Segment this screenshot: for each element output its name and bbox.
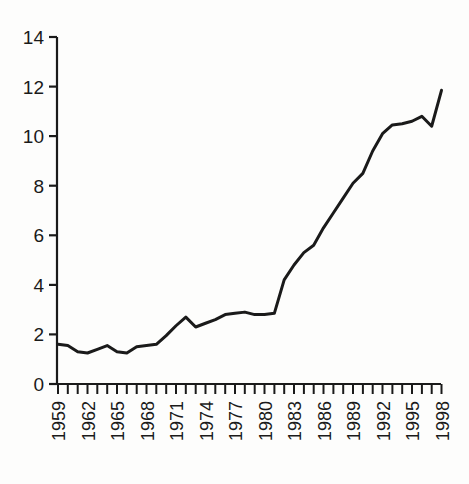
y-tick-label: 6 <box>33 225 44 246</box>
y-tick-label: 4 <box>33 275 44 296</box>
x-tick-label: 1959 <box>49 401 69 441</box>
x-tick-label: 1971 <box>167 401 187 441</box>
x-tick-label: 1992 <box>374 401 394 441</box>
x-tick-label: 1977 <box>226 401 246 441</box>
y-tick-label: 8 <box>33 176 44 197</box>
y-tick-label: 12 <box>23 77 44 98</box>
x-tick-label: 1980 <box>256 401 276 441</box>
x-tick-label: 1962 <box>79 401 99 441</box>
x-tick-label: 1986 <box>315 401 335 441</box>
chart-plot-area: 0 2 4 6 8 10 12 14 1959 1962 1965 1968 1… <box>0 0 469 484</box>
y-tick-label: 0 <box>33 374 44 395</box>
y-tick-label: 2 <box>33 324 44 345</box>
x-tick-label: 1998 <box>433 401 453 441</box>
x-axis-tick-labels: 1959 1962 1965 1968 1971 1974 1977 1980 … <box>49 401 453 441</box>
x-tick-label: 1965 <box>108 401 128 441</box>
x-tick-label: 1989 <box>344 401 364 441</box>
x-tick-label: 1983 <box>285 401 305 441</box>
x-tick-label: 1974 <box>197 401 217 441</box>
y-tick-label: 10 <box>23 126 44 147</box>
y-axis-tick-labels: 0 2 4 6 8 10 12 14 <box>23 27 45 395</box>
line-chart: 0 2 4 6 8 10 12 14 1959 1962 1965 1968 1… <box>0 0 469 484</box>
data-series-line <box>58 90 442 353</box>
y-axis-ticks <box>49 37 57 384</box>
x-tick-label: 1968 <box>138 401 158 441</box>
y-tick-label: 14 <box>23 27 45 48</box>
x-tick-label: 1995 <box>403 401 423 441</box>
x-axis-ticks <box>58 384 442 394</box>
